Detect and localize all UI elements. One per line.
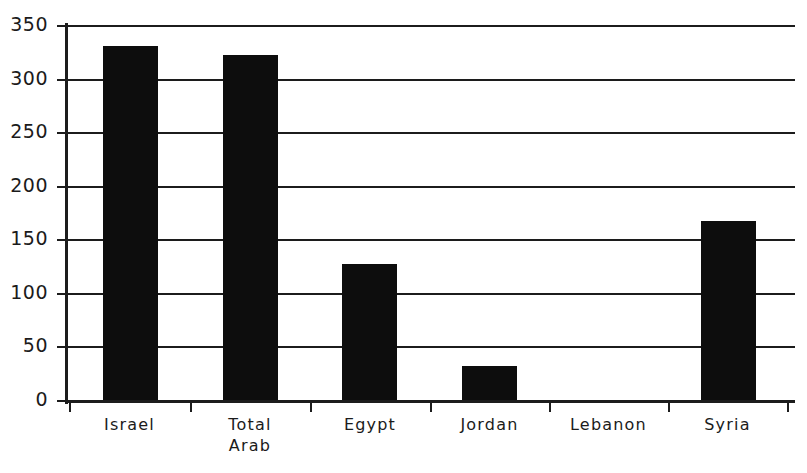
x-tick-4 bbox=[549, 401, 551, 412]
y-tick-label-300: 300 bbox=[10, 69, 48, 88]
gridline-150 bbox=[67, 239, 795, 241]
bar-total-arab bbox=[223, 55, 278, 400]
bar-jordan bbox=[462, 366, 517, 400]
bar-israel bbox=[103, 46, 158, 400]
x-tick-5 bbox=[668, 401, 670, 412]
x-tick-1 bbox=[190, 401, 192, 412]
x-tick-0 bbox=[69, 401, 71, 412]
y-tick-label-250: 250 bbox=[10, 122, 48, 141]
y-tick-350 bbox=[57, 25, 69, 27]
x-tick-6 bbox=[787, 401, 789, 412]
bar-egypt bbox=[342, 264, 397, 400]
y-tick-150 bbox=[57, 239, 69, 241]
y-tick-label-200: 200 bbox=[10, 176, 48, 195]
bar-chart: 350 300 250 200 150 100 50 0 Israel Tota… bbox=[0, 0, 807, 473]
x-label-syria: Syria bbox=[668, 414, 787, 435]
y-tick-label-0: 0 bbox=[35, 390, 48, 409]
x-label-jordan: Jordan bbox=[430, 414, 549, 435]
x-label-israel: Israel bbox=[69, 414, 190, 435]
gridline-200 bbox=[67, 186, 795, 188]
gridline-50 bbox=[67, 346, 795, 348]
y-tick-250 bbox=[57, 132, 69, 134]
y-tick-100 bbox=[57, 293, 69, 295]
x-label-egypt: Egypt bbox=[310, 414, 430, 435]
y-tick-50 bbox=[57, 346, 69, 348]
y-tick-label-150: 150 bbox=[10, 229, 48, 248]
y-tick-label-100: 100 bbox=[10, 283, 48, 302]
gridline-300 bbox=[67, 79, 795, 81]
x-label-lebanon: Lebanon bbox=[549, 414, 668, 435]
bar-syria bbox=[701, 221, 756, 400]
y-tick-label-350: 350 bbox=[10, 15, 48, 34]
gridline-100 bbox=[67, 293, 795, 295]
x-label-total-arab: Total Arab bbox=[190, 414, 310, 456]
y-tick-label-50: 50 bbox=[23, 336, 48, 355]
y-tick-0 bbox=[57, 400, 69, 402]
x-tick-3 bbox=[430, 401, 432, 412]
plot-area bbox=[67, 25, 795, 400]
gridline-350 bbox=[67, 25, 795, 27]
x-tick-2 bbox=[310, 401, 312, 412]
y-tick-200 bbox=[57, 186, 69, 188]
gridline-250 bbox=[67, 132, 795, 134]
y-tick-300 bbox=[57, 79, 69, 81]
